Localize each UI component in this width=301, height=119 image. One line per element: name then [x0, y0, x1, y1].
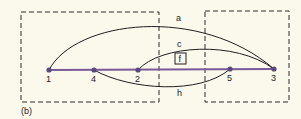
baseline [49, 69, 274, 70]
right-group-box [205, 11, 289, 102]
node-label-1: 1 [46, 74, 51, 84]
edge-a [49, 27, 274, 70]
node-1 [46, 67, 51, 72]
left-group-box [21, 12, 159, 102]
node-2 [135, 67, 140, 72]
node-label-5: 5 [227, 73, 232, 83]
node-label-4: 4 [91, 74, 96, 84]
figure-label: (b) [21, 106, 32, 116]
boxed-label-f: f [179, 54, 182, 64]
edge-c [138, 49, 274, 70]
node-5 [227, 66, 232, 71]
edge-label-h: h [177, 88, 182, 98]
node-4 [91, 67, 96, 72]
node-3 [271, 66, 276, 71]
node-label-3: 3 [271, 73, 276, 83]
diagram-canvas: 1 4 2 5 3 a c h f (b) [0, 0, 301, 119]
node-label-2: 2 [135, 74, 140, 84]
edge-label-a: a [176, 13, 181, 23]
edge-h [94, 69, 230, 87]
edge-label-c: c [177, 39, 182, 49]
